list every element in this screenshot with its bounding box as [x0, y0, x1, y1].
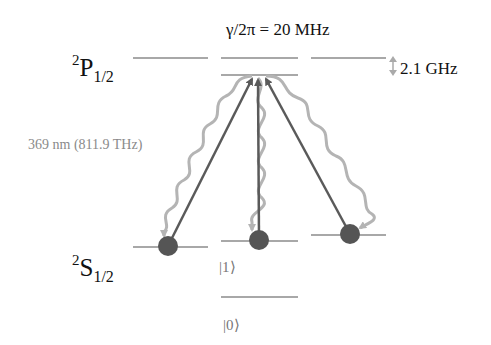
linewidth-label: γ/2π = 20 MHz	[226, 20, 330, 40]
ground-state-label: 2S1/2	[72, 252, 114, 286]
ket-zero-label: |0⟩	[223, 316, 240, 334]
excited-state-label: 2P1/2	[72, 52, 114, 86]
splitting-label: 2.1 GHz	[400, 59, 458, 79]
ket-one-label: |1⟩	[219, 258, 236, 276]
spontaneous-decay-wavy-arrows	[164, 76, 374, 236]
excitation-arrows	[168, 79, 350, 246]
transition-wavelength-label: 369 nm (811.9 THz)	[28, 137, 142, 153]
splitting-double-arrow-icon	[389, 56, 397, 76]
